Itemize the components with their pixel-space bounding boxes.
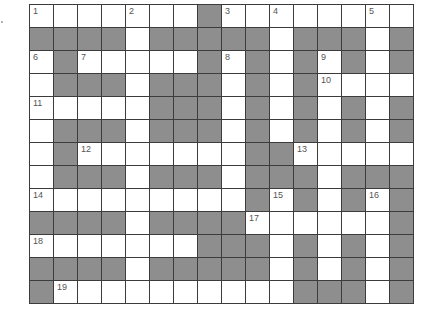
answer-cell[interactable] (317, 4, 341, 27)
answer-cell[interactable] (125, 96, 149, 119)
answer-cell[interactable]: 13 (293, 142, 317, 165)
answer-cell[interactable] (341, 4, 365, 27)
answer-cell[interactable] (317, 119, 341, 142)
answer-cell[interactable] (221, 188, 245, 211)
answer-cell[interactable] (317, 165, 341, 188)
answer-cell[interactable] (269, 211, 293, 234)
answer-cell[interactable] (341, 211, 365, 234)
answer-cell[interactable] (125, 211, 149, 234)
answer-cell[interactable] (101, 96, 125, 119)
answer-cell[interactable]: 12 (77, 142, 101, 165)
answer-cell[interactable]: 7 (77, 50, 101, 73)
answer-cell[interactable] (125, 73, 149, 96)
answer-cell[interactable] (389, 4, 413, 27)
answer-cell[interactable] (29, 142, 53, 165)
answer-cell[interactable] (149, 4, 173, 27)
answer-cell[interactable] (221, 73, 245, 96)
answer-cell[interactable]: 10 (317, 73, 341, 96)
answer-cell[interactable] (365, 50, 389, 73)
answer-cell[interactable]: 2 (125, 4, 149, 27)
answer-cell[interactable] (365, 280, 389, 303)
answer-cell[interactable] (197, 142, 221, 165)
answer-cell[interactable] (125, 142, 149, 165)
answer-cell[interactable] (269, 50, 293, 73)
answer-cell[interactable] (173, 234, 197, 257)
answer-cell[interactable] (221, 280, 245, 303)
answer-cell[interactable] (173, 188, 197, 211)
answer-cell[interactable] (269, 257, 293, 280)
answer-cell[interactable] (269, 73, 293, 96)
answer-cell[interactable] (101, 234, 125, 257)
answer-cell[interactable]: 1 (29, 4, 53, 27)
answer-cell[interactable] (365, 96, 389, 119)
answer-cell[interactable]: 5 (365, 4, 389, 27)
answer-cell[interactable] (365, 73, 389, 96)
answer-cell[interactable] (173, 4, 197, 27)
answer-cell[interactable] (149, 234, 173, 257)
answer-cell[interactable] (125, 50, 149, 73)
answer-cell[interactable]: 8 (221, 50, 245, 73)
answer-cell[interactable] (149, 280, 173, 303)
answer-cell[interactable] (173, 280, 197, 303)
answer-cell[interactable] (365, 27, 389, 50)
answer-cell[interactable] (101, 280, 125, 303)
answer-cell[interactable] (293, 4, 317, 27)
answer-cell[interactable] (317, 142, 341, 165)
answer-cell[interactable] (389, 73, 413, 96)
answer-cell[interactable] (221, 142, 245, 165)
answer-cell[interactable] (53, 96, 77, 119)
answer-cell[interactable] (53, 4, 77, 27)
answer-cell[interactable] (317, 96, 341, 119)
answer-cell[interactable] (149, 142, 173, 165)
answer-cell[interactable] (221, 96, 245, 119)
answer-cell[interactable] (125, 257, 149, 280)
answer-cell[interactable] (245, 4, 269, 27)
answer-cell[interactable] (77, 188, 101, 211)
answer-cell[interactable] (197, 188, 221, 211)
answer-cell[interactable] (125, 165, 149, 188)
answer-cell[interactable] (173, 142, 197, 165)
answer-cell[interactable]: 3 (221, 4, 245, 27)
answer-cell[interactable] (29, 119, 53, 142)
answer-cell[interactable] (173, 50, 197, 73)
answer-cell[interactable] (77, 96, 101, 119)
answer-cell[interactable] (317, 188, 341, 211)
answer-cell[interactable] (101, 188, 125, 211)
answer-cell[interactable] (77, 4, 101, 27)
answer-cell[interactable] (29, 165, 53, 188)
answer-cell[interactable] (101, 50, 125, 73)
answer-cell[interactable] (125, 27, 149, 50)
answer-cell[interactable] (365, 119, 389, 142)
answer-cell[interactable] (293, 211, 317, 234)
answer-cell[interactable] (221, 119, 245, 142)
answer-cell[interactable] (197, 280, 221, 303)
answer-cell[interactable] (125, 234, 149, 257)
answer-cell[interactable] (269, 234, 293, 257)
answer-cell[interactable] (341, 142, 365, 165)
answer-cell[interactable] (53, 234, 77, 257)
answer-cell[interactable] (317, 234, 341, 257)
answer-cell[interactable] (365, 257, 389, 280)
answer-cell[interactable] (365, 142, 389, 165)
answer-cell[interactable] (29, 73, 53, 96)
answer-cell[interactable] (149, 188, 173, 211)
answer-cell[interactable] (77, 280, 101, 303)
answer-cell[interactable] (317, 211, 341, 234)
answer-cell[interactable]: 14 (29, 188, 53, 211)
answer-cell[interactable] (125, 119, 149, 142)
answer-cell[interactable]: 16 (365, 188, 389, 211)
answer-cell[interactable]: 9 (317, 50, 341, 73)
answer-cell[interactable]: 15 (269, 188, 293, 211)
answer-cell[interactable] (245, 280, 269, 303)
answer-cell[interactable]: 11 (29, 96, 53, 119)
answer-cell[interactable] (365, 211, 389, 234)
answer-cell[interactable] (53, 188, 77, 211)
answer-cell[interactable]: 6 (29, 50, 53, 73)
answer-cell[interactable]: 18 (29, 234, 53, 257)
answer-cell[interactable] (101, 142, 125, 165)
answer-cell[interactable] (269, 27, 293, 50)
answer-cell[interactable] (365, 234, 389, 257)
answer-cell[interactable] (269, 119, 293, 142)
answer-cell[interactable] (389, 142, 413, 165)
answer-cell[interactable] (77, 234, 101, 257)
